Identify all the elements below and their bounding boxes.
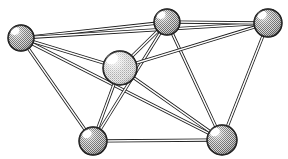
graph-canvas xyxy=(0,0,288,159)
graph-edge xyxy=(227,34,264,129)
graph-node-center[interactable] xyxy=(103,51,137,85)
graph-edge xyxy=(27,47,86,132)
graph-edge xyxy=(177,22,256,23)
graph-node-bottom-right[interactable] xyxy=(207,125,237,155)
graph-node-top-right[interactable] xyxy=(254,9,282,37)
graph-node-left[interactable] xyxy=(8,25,34,51)
graph-node-top-middle[interactable] xyxy=(154,9,180,35)
graph-edge xyxy=(132,76,212,132)
graph-node-bottom-left[interactable] xyxy=(79,127,107,155)
graph-edge xyxy=(31,41,106,64)
edges-layer xyxy=(27,22,264,141)
graph-figure xyxy=(0,0,288,159)
graph-edge xyxy=(104,140,209,141)
